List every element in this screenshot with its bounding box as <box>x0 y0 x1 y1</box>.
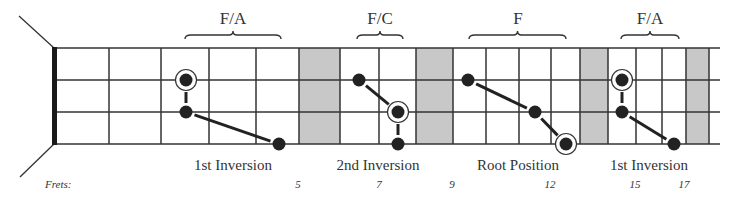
chord-brace <box>357 31 403 39</box>
fret-number-label: 12 <box>545 178 557 190</box>
fret-numbers: Frets: 579121517 <box>44 178 690 190</box>
root-note-dot <box>180 74 193 87</box>
connector-line <box>366 86 389 105</box>
nut <box>52 47 57 145</box>
fret-number-label: 15 <box>630 178 642 190</box>
fretboard-diagram: F/AF/CFF/A 1st Inversion2nd InversionRoo… <box>0 0 737 206</box>
headstock-line-bottom <box>20 144 54 177</box>
root-note-dot <box>616 74 629 87</box>
headstock-line-top <box>19 16 54 48</box>
nut <box>52 47 57 145</box>
fret-number-label: 9 <box>449 178 455 190</box>
fret-marker-cell <box>686 48 709 144</box>
note-dot <box>180 106 193 119</box>
frets <box>109 48 709 144</box>
note-dot <box>529 106 542 119</box>
chord-brace <box>469 31 566 39</box>
note-dot <box>273 138 286 151</box>
fret-marker-cell <box>416 48 453 144</box>
chord-position-label: 1st Inversion <box>610 157 688 173</box>
fret-marker-cell <box>580 48 608 144</box>
chord-name-label: F <box>513 9 522 28</box>
note-dot <box>353 74 366 87</box>
chord-brace <box>185 31 281 39</box>
frets-caption: Frets: <box>44 178 71 190</box>
headstock-lines <box>19 16 54 177</box>
chord-labels: F/AF/CFF/A <box>220 9 664 28</box>
fret-number-label: 7 <box>376 178 382 190</box>
strings <box>54 48 720 144</box>
note-dot <box>392 138 405 151</box>
note-dot <box>616 106 629 119</box>
chord-position-label: Root Position <box>477 157 560 173</box>
chord-brace <box>621 31 679 39</box>
chord-shape <box>176 70 286 151</box>
connector-line <box>541 118 557 135</box>
note-dot <box>462 74 475 87</box>
chord-name-label: F/A <box>637 9 664 28</box>
note-dot <box>668 138 681 151</box>
root-note-dot <box>560 138 573 151</box>
position-labels: 1st Inversion2nd InversionRoot Position1… <box>194 157 688 173</box>
chord-position-label: 1st Inversion <box>194 157 272 173</box>
chord-name-label: F/C <box>367 9 393 28</box>
root-note-dot <box>392 106 405 119</box>
chord-name-label: F/A <box>220 9 247 28</box>
chord-position-label: 2nd Inversion <box>337 157 420 173</box>
fret-number-label: 17 <box>679 178 691 190</box>
chord-shape <box>612 70 681 151</box>
connector-line <box>630 117 667 140</box>
chord-braces <box>185 31 679 39</box>
fret-marker-cell <box>299 48 340 144</box>
connector-line <box>195 115 271 141</box>
fret-number-label: 5 <box>295 178 301 190</box>
